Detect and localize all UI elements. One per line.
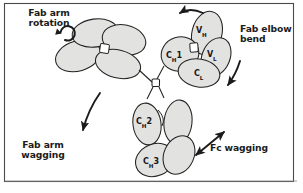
domain-label-vl-sub: L xyxy=(213,56,216,62)
domain-label-vl: VL xyxy=(207,51,217,60)
label-fc-wagging-line1: Fc wagging xyxy=(210,142,268,153)
domain-label-ch1-sub: H xyxy=(172,57,177,63)
domain-label-ch1-suffix: 1 xyxy=(176,51,181,60)
domain-label-ch3-suffix: 3 xyxy=(153,157,158,166)
fab-right-elbow-joint xyxy=(190,43,199,53)
label-fab-elbow-bend: Fab elbowbend xyxy=(240,24,300,45)
domain-label-cl-base: C xyxy=(194,69,200,78)
label-fab-arm-rotation-line2: rotation xyxy=(28,17,69,28)
domain-label-ch2-sub: H xyxy=(142,123,147,129)
domain-label-ch2: CH2 xyxy=(136,118,152,127)
domain-label-vh: VH xyxy=(196,27,207,36)
label-fab-arm-wagging: Fab armwagging xyxy=(12,140,74,161)
domain-label-ch1: CH1 xyxy=(166,52,182,61)
domain-label-ch3: CH3 xyxy=(143,158,159,167)
label-fc-wagging: Fc wagging xyxy=(210,143,284,153)
label-fab-arm-rotation: Fab armrotation xyxy=(18,8,80,29)
domain-label-vh-sub: H xyxy=(202,32,207,38)
domain-label-ch1-base: C xyxy=(166,51,172,60)
central-hinge-square xyxy=(152,79,160,87)
domain-label-ch2-suffix: 2 xyxy=(146,117,151,126)
domain-label-cl: CL xyxy=(194,70,203,79)
domain-label-ch3-base: C xyxy=(143,157,149,166)
domain-label-ch3-sub: H xyxy=(149,163,154,169)
label-fab-arm-wagging-line2: wagging xyxy=(21,149,64,160)
domain-label-ch2-base: C xyxy=(136,117,142,126)
label-fab-elbow-bend-line2: bend xyxy=(240,33,266,44)
fab-left-elbow-joint xyxy=(99,43,109,53)
figure-panel: Fab armrotation Fab elbowbend Fab armwag… xyxy=(0,0,303,193)
domain-label-cl-sub: L xyxy=(200,75,203,81)
